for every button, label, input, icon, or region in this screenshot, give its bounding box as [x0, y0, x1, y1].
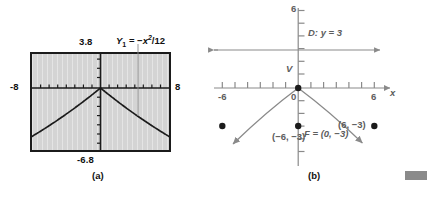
focus-point [295, 123, 301, 129]
panel-a-calculator: 3.8 -6.8 -8 8 Y1 = −x2/12 (a) [0, 0, 216, 197]
calc-y-axis [97, 54, 101, 150]
calc-xmax-label: 8 [175, 81, 180, 92]
x-axis-group [214, 82, 390, 88]
caption-a: (a) [92, 170, 104, 181]
x-axis-label-neg6: -6 [218, 91, 226, 102]
figure-container: 3.8 -6.8 -8 8 Y1 = −x2/12 (a) [0, 0, 433, 197]
parabola-arrow-left-tail [233, 139, 238, 144]
vertex-label: V [286, 63, 292, 74]
panel-b-graph: 6 -6 6 0 x V D: y = 3 F = (0, −3) (−6, −… [200, 0, 433, 197]
decoration-square [405, 171, 427, 180]
point-left [219, 123, 225, 129]
directrix-label: D: y = 3 [308, 27, 342, 38]
x-axis-name-label: x [390, 87, 395, 98]
calc-label-leader-line [133, 44, 145, 116]
point-right [371, 123, 377, 129]
graph-svg [200, 0, 433, 170]
y-axis-label-6: 6 [291, 3, 296, 14]
calc-ymin-label: -6.8 [77, 154, 94, 165]
calc-ymax-label: 3.8 [79, 36, 93, 47]
point-left-label: (−6, −3) [272, 131, 305, 142]
calculator-screen [30, 52, 171, 152]
caption-b: (b) [308, 170, 320, 181]
calculator-plot-svg [32, 54, 169, 150]
x-axis-label-6: 6 [371, 91, 376, 102]
calc-xmin-label: -8 [10, 81, 19, 92]
point-right-label: (6, −3) [338, 119, 366, 130]
origin-label: 0 [291, 91, 296, 102]
function-subscript: 1 [122, 41, 126, 48]
function-expression-suffix: /12 [152, 35, 165, 46]
